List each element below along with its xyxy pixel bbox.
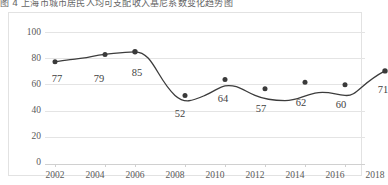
point-value-label: 52 xyxy=(175,109,186,120)
plot-area: 77 79 85 52 64 57 62 60 71 xyxy=(45,32,365,164)
x-axis-line xyxy=(45,164,365,165)
figure-caption: 图 4 上海市城市居民人均可支配收入基尼系数变化趋势图 xyxy=(0,0,370,8)
y-tick-label: 100 xyxy=(15,28,41,38)
point-value-label: 62 xyxy=(296,98,307,109)
x-axis: 2002 2004 2006 2008 2010 2012 2014 2016 … xyxy=(45,171,365,185)
x-tick-label: 2008 xyxy=(166,171,185,181)
x-tick-label: 2012 xyxy=(246,171,265,181)
point-value-label: 57 xyxy=(256,104,267,115)
data-point-2002 xyxy=(53,59,58,64)
point-value-label: 85 xyxy=(132,68,143,79)
point-value-label: 64 xyxy=(218,94,229,105)
x-tick xyxy=(135,164,136,167)
data-point-2006 xyxy=(132,49,137,54)
y-axis: 100 80 60 40 20 0 xyxy=(13,32,41,164)
chart-figure-frame: 100 80 60 40 20 0 77 79 85 52 64 5 xyxy=(8,12,362,176)
x-tick xyxy=(305,164,306,167)
x-tick xyxy=(55,164,56,167)
x-tick-label: 2016 xyxy=(326,171,345,181)
y-tick-label: 60 xyxy=(15,80,41,90)
x-tick xyxy=(265,164,266,167)
x-tick-label: 2002 xyxy=(46,171,65,181)
data-point-2008 xyxy=(183,93,188,98)
data-point-2016 xyxy=(343,82,348,87)
data-point-2010 xyxy=(223,77,228,82)
x-tick-label: 2006 xyxy=(126,171,145,181)
point-value-label: 77 xyxy=(52,74,63,85)
x-tick-label: 2014 xyxy=(286,171,305,181)
x-tick xyxy=(185,164,186,167)
y-tick-label: 40 xyxy=(15,106,41,116)
x-tick xyxy=(345,164,346,167)
point-value-label: 79 xyxy=(94,74,105,85)
data-point-2004 xyxy=(103,52,108,57)
y-tick-label: 20 xyxy=(15,132,41,142)
data-point-2014 xyxy=(303,80,308,85)
x-tick-label: 2018 xyxy=(366,171,385,181)
data-point-2018 xyxy=(382,68,387,73)
point-value-label: 60 xyxy=(336,100,347,111)
x-tick-label: 2004 xyxy=(86,171,105,181)
x-tick-label: 2010 xyxy=(206,171,225,181)
data-point-2012 xyxy=(263,86,268,91)
x-tick xyxy=(225,164,226,167)
x-tick xyxy=(105,164,106,167)
point-value-label: 71 xyxy=(378,85,388,96)
line-series xyxy=(45,32,365,164)
y-tick-label: 0 xyxy=(15,158,41,168)
y-tick-label: 80 xyxy=(15,54,41,64)
